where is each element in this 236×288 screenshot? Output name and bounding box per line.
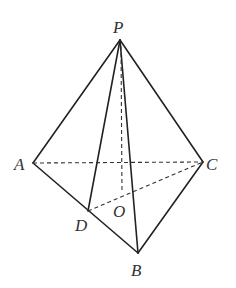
edge-PB xyxy=(120,40,138,253)
label-O: O xyxy=(113,202,125,221)
edge-BC xyxy=(138,162,203,253)
label-C: C xyxy=(206,155,218,174)
edge-PD xyxy=(88,40,120,211)
edge-PA xyxy=(33,40,120,163)
label-P: P xyxy=(112,18,123,37)
edge-AC-hidden xyxy=(33,162,203,163)
pyramid-diagram: P A C D O B xyxy=(0,0,236,288)
label-D: D xyxy=(74,216,88,235)
edge-PC xyxy=(120,40,203,162)
label-A: A xyxy=(13,155,25,174)
label-B: B xyxy=(131,261,142,280)
